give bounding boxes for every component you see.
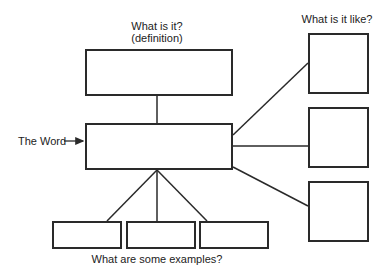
definition-prompt-line2: (definition): [131, 32, 182, 44]
properties-prompt: What is it like?: [302, 13, 373, 25]
word-box: [85, 123, 233, 170]
definition-prompt-line1: What is it?: [131, 20, 182, 32]
example-box-1: [52, 221, 122, 249]
property-box-1: [308, 33, 369, 94]
property-connector-3: [233, 167, 308, 206]
example-connector-1: [107, 170, 157, 221]
property-connector-1: [233, 63, 308, 135]
examples-prompt: What are some examples?: [92, 253, 223, 265]
definition-box: [85, 49, 233, 96]
property-box-3: [308, 181, 369, 242]
example-connector-3: [157, 170, 207, 221]
example-box-2: [126, 221, 196, 249]
property-box-2: [308, 107, 369, 168]
word-label: The Word: [18, 135, 66, 147]
example-box-3: [199, 221, 269, 249]
